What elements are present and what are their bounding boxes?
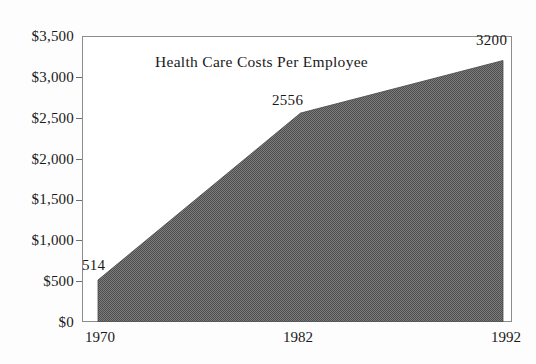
y-tick-label-0: $0	[0, 315, 74, 330]
chart-title: Health Care Costs Per Employee	[155, 53, 368, 71]
x-tick-label-1970: 1970	[72, 329, 128, 345]
y-tick-label-3500: $3,500	[0, 29, 74, 44]
x-tick-label-1992: 1992	[478, 329, 534, 345]
y-tick-label-3000: $3,000	[0, 70, 74, 85]
x-tick-label-1982: 1982	[270, 329, 326, 345]
chart-container: $3,500 $3,000 $2,500 $2,000 $1,500 $1,00…	[0, 0, 536, 364]
data-label-1992: 3200	[476, 32, 507, 48]
y-tick-label-500: $500	[0, 274, 74, 289]
y-axis: $3,500 $3,000 $2,500 $2,000 $1,500 $1,00…	[0, 0, 74, 364]
data-label-1982: 2556	[272, 92, 303, 108]
y-tick-label-2500: $2,500	[0, 111, 74, 126]
data-label-1970: 514	[82, 257, 105, 273]
y-tick-label-2000: $2,000	[0, 152, 74, 167]
area-series	[82, 36, 512, 322]
y-tick-label-1000: $1,000	[0, 233, 74, 248]
y-tick-label-1500: $1,500	[0, 192, 74, 207]
